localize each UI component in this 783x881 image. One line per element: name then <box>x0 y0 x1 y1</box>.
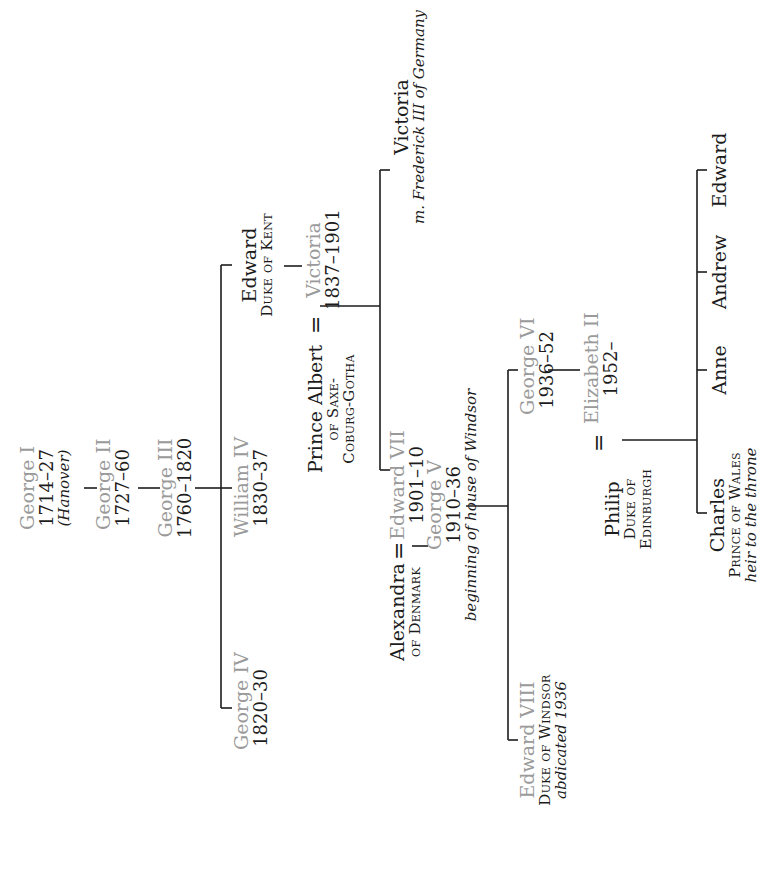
marriage-symbol-alexandra-edward7: = <box>386 542 411 560</box>
node-victoria-daughter: Victoria m. Frederick III of Germany <box>392 2 428 232</box>
reign-years: 1714–27 <box>38 446 57 530</box>
title: of Denmark <box>408 562 424 662</box>
title-line-2: Edinburgh <box>639 454 655 564</box>
name: Victoria <box>392 2 412 232</box>
marriage-symbol-philip-elizabeth: = <box>586 434 611 452</box>
node-edward-viii: Edward VIII Duke of Windsor abdicated 19… <box>518 660 569 820</box>
name: Philip <box>603 454 623 564</box>
title-line-2: Coburg-Gotha <box>342 344 358 474</box>
name: Edward <box>240 195 260 335</box>
note: (Hanover) <box>57 446 73 530</box>
name: George IV <box>232 666 252 750</box>
name: George I <box>18 446 38 530</box>
reign-years: 1952– <box>602 314 621 424</box>
node-edward-vii: Edward VII 1901–10 <box>388 430 427 540</box>
name: Charles <box>708 440 728 590</box>
node-george-ii: George II 1727–60 <box>94 446 133 530</box>
name: Edward VIII <box>518 660 538 820</box>
note: abdicated 1936 <box>554 660 570 820</box>
name: George V <box>425 380 445 630</box>
node-victoria-queen: Victoria 1837–1901 <box>304 210 343 310</box>
node-george-iii: George III 1760–1820 <box>156 436 195 540</box>
reign-years: 1820–30 <box>252 666 271 750</box>
name: George III <box>156 436 176 540</box>
name: Alexandra <box>388 562 408 662</box>
name: George II <box>94 446 114 530</box>
node-anne: Anne <box>710 340 730 400</box>
reign-years: 1837–1901 <box>324 210 343 310</box>
node-edward-son: Edward <box>710 130 730 210</box>
node-prince-albert: Prince Albert of Saxe- Coburg-Gotha <box>306 344 357 474</box>
name: George VI <box>518 325 538 415</box>
note: beginning of house of Windsor <box>464 380 480 630</box>
marriage-symbol-albert-victoria: = <box>303 316 328 334</box>
name: Edward <box>710 130 730 210</box>
reign-years: 1910–36 <box>445 380 464 630</box>
reign-years: 1760–1820 <box>176 436 195 540</box>
note: heir to the throne <box>744 440 760 590</box>
node-elizabeth-ii: Elizabeth II 1952– <box>582 314 621 424</box>
reign-years: 1727–60 <box>114 446 133 530</box>
name: Andrew <box>710 232 730 312</box>
node-william-iv: William IV 1830–37 <box>232 439 271 537</box>
reign-years: 1830–37 <box>252 439 271 537</box>
node-edward-duke-of-kent: Edward Duke of Kent <box>240 195 276 335</box>
note: m. Frederick III of Germany <box>412 2 428 232</box>
node-george-iv: George IV 1820–30 <box>232 666 271 750</box>
node-charles: Charles Prince of Wales heir to the thro… <box>708 440 759 590</box>
name: Anne <box>710 340 730 400</box>
node-andrew: Andrew <box>710 232 730 312</box>
reign-years: 1936–52 <box>538 325 557 415</box>
name: Victoria <box>304 210 324 310</box>
node-george-vi: George VI 1936–52 <box>518 325 557 415</box>
name: William IV <box>232 439 252 537</box>
node-george-i: George I 1714–27 (Hanover) <box>18 446 73 530</box>
node-george-v: George V 1910–36 beginning of house of W… <box>425 380 480 630</box>
title: Duke of Kent <box>260 195 276 335</box>
node-philip: Philip Duke of Edinburgh <box>603 454 654 564</box>
name: Edward VII <box>388 430 408 540</box>
name: Elizabeth II <box>582 314 602 424</box>
name: Prince Albert <box>306 344 326 474</box>
node-alexandra: Alexandra of Denmark <box>388 562 424 662</box>
